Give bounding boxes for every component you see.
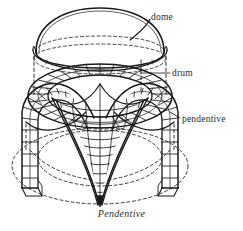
leader-dome [130, 19, 150, 40]
dome-shell [36, 8, 164, 52]
right-pier-base-side [158, 188, 178, 196]
label-pendentive: pendentive [182, 114, 226, 124]
base-plan-square-right [108, 150, 170, 180]
left-pier-base-side [22, 188, 42, 196]
figure-caption: Pendentive [0, 208, 243, 219]
dome-base-hidden-arc [36, 36, 164, 52]
drawing-ink [12, 8, 188, 207]
label-dome: dome [151, 12, 173, 22]
dome-group [33, 8, 167, 71]
drum-top-hidden-ellipse [34, 44, 166, 58]
central-pendentive-group [52, 84, 148, 207]
pendentive-diagram: dome drum pendentive Pendentive [0, 0, 243, 231]
label-drum: drum [172, 68, 193, 78]
base-plan-square-left [30, 150, 92, 180]
